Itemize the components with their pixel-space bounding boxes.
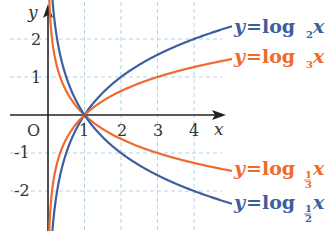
curve-log3: [49, 59, 232, 231]
legend-log-one-half: y =log 1 2 x: [233, 191, 325, 224]
curve-log-one-half: [52, 0, 232, 204]
svg-text:=log: =log: [246, 157, 295, 179]
log-functions-chart: y x O 1 2 3 4 2 1 -1 -2 y =log 2 x y =lo…: [0, 0, 329, 231]
origin-label: O: [27, 121, 40, 140]
svg-text:2: 2: [306, 29, 313, 40]
legend-log-one-third: y =log 1 3 x: [233, 157, 325, 190]
svg-text:x: x: [312, 191, 325, 213]
svg-text:x: x: [312, 45, 325, 67]
x-tick-3: 3: [153, 121, 163, 140]
y-tick-2: 2: [31, 30, 41, 49]
svg-text:=log: =log: [246, 191, 295, 213]
x-tick-4: 4: [189, 121, 199, 140]
svg-text:y: y: [233, 191, 247, 213]
x-tick-2: 2: [117, 121, 127, 140]
legend-log2: y =log 2 x: [233, 15, 325, 40]
svg-text:=log: =log: [246, 45, 295, 67]
legend-log3: y =log 3 x: [233, 45, 325, 70]
x-tick-1: 1: [79, 121, 89, 140]
svg-text:y: y: [233, 157, 247, 179]
y-tick-1: 1: [31, 68, 41, 87]
svg-text:3: 3: [305, 179, 312, 190]
svg-text:2: 2: [305, 213, 312, 224]
svg-text:x: x: [312, 15, 325, 37]
svg-text:=log: =log: [246, 15, 295, 37]
y-tick-minus-1: -1: [14, 143, 30, 162]
svg-text:x: x: [312, 157, 325, 179]
curve-log-one-third: [49, 0, 232, 171]
x-axis-label: x: [214, 119, 224, 139]
y-axis-label: y: [27, 2, 38, 22]
y-tick-minus-2: -2: [14, 181, 30, 200]
svg-text:3: 3: [306, 59, 313, 70]
grid-lines: [10, 2, 222, 231]
svg-text:y: y: [233, 15, 247, 37]
svg-text:y: y: [233, 45, 247, 67]
